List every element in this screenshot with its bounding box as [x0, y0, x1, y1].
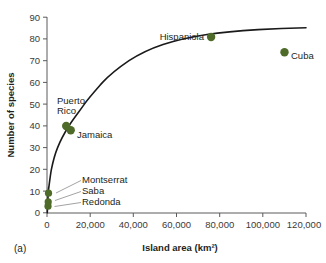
y-axis-ticks: [43, 17, 47, 213]
label-hispaniola: Hispaniola: [160, 31, 205, 42]
data-point-saba[interactable]: [45, 198, 52, 205]
leader-line-redonda: [55, 203, 82, 207]
chart-canvas: 90 80 70 60 50 40 30 20 10 0 0 20,000 40…: [0, 0, 326, 263]
y-tick-label: 10: [29, 186, 40, 197]
y-tick-label: 70: [29, 55, 40, 66]
x-tick-label: 20,000: [76, 219, 105, 230]
label-montserrat: Montserrat: [82, 174, 128, 185]
leader-line-saba: [55, 192, 81, 201]
y-tick-label: 0: [35, 207, 40, 218]
label-puerto-rico-line2: Rico: [57, 105, 76, 116]
data-point-jamaica[interactable]: [67, 126, 75, 134]
data-point-labels: Hispaniola Cuba Puerto Rico Jamaica Mont…: [57, 31, 314, 207]
y-tick-label: 30: [29, 142, 40, 153]
x-axis-title: Island area (km²): [142, 242, 218, 253]
small-island-leader-lines: [55, 181, 82, 207]
x-axis-tick-labels: 0 20,000 40,000 60,000 80,000 100,000 12…: [44, 219, 321, 230]
species-area-figure: 90 80 70 60 50 40 30 20 10 0 0 20,000 40…: [0, 0, 326, 263]
x-tick-label: 40,000: [119, 219, 148, 230]
x-tick-label: 80,000: [205, 219, 234, 230]
y-tick-label: 20: [29, 164, 40, 175]
x-tick-label: 60,000: [162, 219, 191, 230]
y-tick-label: 90: [29, 12, 40, 23]
data-point-hispaniola[interactable]: [207, 33, 215, 41]
y-axis-title: Number of species: [5, 73, 16, 158]
label-jamaica: Jamaica: [77, 129, 113, 140]
data-point-cuba[interactable]: [280, 48, 288, 56]
x-tick-label: 120,000: [287, 219, 321, 230]
y-tick-label: 60: [29, 77, 40, 88]
y-tick-label: 40: [29, 120, 40, 131]
label-cuba: Cuba: [291, 50, 314, 61]
y-tick-label: 50: [29, 99, 40, 110]
y-axis-tick-labels: 90 80 70 60 50 40 30 20 10 0: [29, 12, 40, 219]
x-tick-label: 100,000: [246, 219, 280, 230]
label-saba: Saba: [82, 185, 105, 196]
y-tick-label: 80: [29, 33, 40, 44]
x-axis-ticks: [47, 213, 306, 217]
leader-line-montserrat: [56, 181, 81, 194]
label-redonda: Redonda: [82, 196, 121, 207]
panel-label: (a): [14, 243, 26, 254]
data-point-montserrat[interactable]: [45, 190, 52, 197]
x-tick-label: 0: [44, 219, 49, 230]
